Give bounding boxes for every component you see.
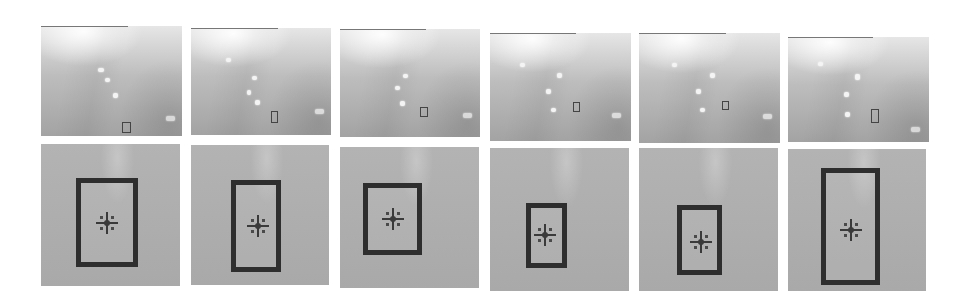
marker-center [542,232,548,238]
marker-dot [251,230,254,233]
hotspot [818,62,823,66]
crop-frame-3 [340,147,479,288]
hotspot [855,74,860,80]
hotspot [700,108,705,112]
crop-frame-6 [788,149,926,291]
scene-frame-5 [639,33,780,143]
marker-center [255,223,261,229]
crop-frame-1 [41,144,180,286]
hotspot [710,73,715,78]
marker-dot [251,219,254,222]
hotspot [612,113,621,118]
target-star-icon [382,208,404,230]
hotspot [844,92,849,97]
marker-center [104,220,110,226]
tracking-box [722,101,729,110]
hotspot [255,100,260,105]
hotspot [400,101,405,106]
tracking-box [122,122,131,133]
scene-top-line [340,29,426,30]
scene-top-line [41,26,128,27]
hotspot [696,89,701,94]
hotspot [247,90,251,95]
target-star-icon [96,212,118,234]
hotspot [672,63,677,67]
crop-frame-4 [490,148,629,291]
marker-dot [705,246,708,249]
hotspot [113,93,118,98]
scene-frame-3 [340,29,480,137]
marker-center [698,239,704,245]
hotspot [763,114,772,119]
marker-dot [549,228,552,231]
tracking-box [871,109,879,123]
marker-dot [538,239,541,242]
hotspot [403,74,408,78]
scene-frame-2 [191,28,331,135]
hotspot [105,78,110,82]
hotspot [546,89,551,94]
hotspot [551,108,556,112]
marker-dot [694,235,697,238]
target-star-icon [534,224,556,246]
scene-top-line [490,33,576,34]
tracking-box [573,102,580,112]
marker-center [390,216,396,222]
marker-dot [855,234,858,237]
scene-frame-6 [788,37,929,142]
hotspot [463,113,472,118]
scene-frame-4 [490,33,631,141]
tracking-box [420,107,428,117]
marker-dot [855,223,858,226]
marker-dot [100,227,103,230]
target-star-icon [690,231,712,253]
hotspot [557,73,562,78]
marker-dot [694,246,697,249]
marker-dot [705,235,708,238]
crop-frame-5 [639,148,778,291]
marker-dot [538,228,541,231]
hotspot [395,86,400,90]
marker-dot [100,216,103,219]
hotspot [315,109,324,114]
marker-dot [111,227,114,230]
marker-dot [111,216,114,219]
scene-top-line [639,33,726,34]
hotspot [845,112,850,117]
marker-dot [386,223,389,226]
scene-top-line [788,37,873,38]
hotspot [98,68,104,72]
scene-frame-1 [41,26,182,136]
crop-frame-2 [191,145,329,285]
hotspot [911,127,920,132]
hotspot [226,58,231,62]
marker-dot [844,234,847,237]
marker-center [848,227,854,233]
marker-dot [549,239,552,242]
hotspot [166,116,175,121]
marker-dot [844,223,847,226]
marker-dot [397,212,400,215]
marker-dot [397,223,400,226]
hotspot [252,76,257,80]
tracking-box [271,111,278,123]
marker-dot [386,212,389,215]
scene-top-line [191,28,278,29]
marker-dot [262,219,265,222]
target-star-icon [840,219,862,241]
target-star-icon [247,215,269,237]
hotspot [520,63,525,67]
marker-dot [262,230,265,233]
